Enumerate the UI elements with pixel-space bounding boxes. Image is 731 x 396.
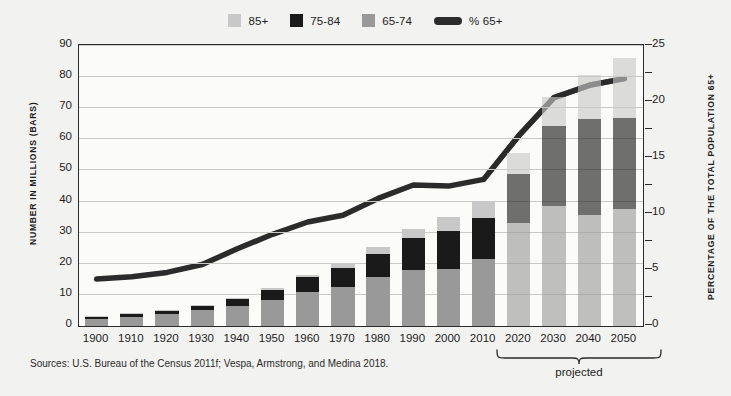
y-axis-left-tick-label: 0	[38, 318, 72, 330]
bar-group	[578, 75, 601, 326]
legend-label: 75-84	[310, 15, 340, 27]
y-axis-right-tick-mark	[645, 128, 652, 129]
bar-group	[191, 305, 214, 326]
bar-segment-85plus	[507, 153, 530, 174]
legend-item-7584: 75-84	[290, 14, 340, 27]
bar-segment-75-84	[507, 174, 530, 223]
bar-group	[472, 201, 495, 326]
y-axis-left-tick-label: 50	[38, 162, 72, 174]
gridline	[79, 45, 643, 46]
bar-group	[402, 229, 425, 326]
y-axis-left-tick-label: 40	[38, 194, 72, 206]
bar-segment-75-84	[120, 314, 143, 317]
bar-segment-75-84	[226, 299, 249, 306]
bar-group	[85, 316, 108, 326]
bar-group	[331, 264, 354, 326]
bar-segment-85plus	[437, 217, 460, 230]
bar-segment-65-74	[331, 287, 354, 326]
bar-segment-85plus	[542, 97, 565, 125]
legend-swatch-icon	[290, 14, 303, 27]
y-axis-right-tick-label: 25	[652, 38, 686, 50]
legend-line-icon	[434, 17, 462, 25]
legend-label: 65-74	[382, 15, 412, 27]
gridline	[79, 76, 643, 77]
bar-segment-85plus	[613, 58, 636, 117]
bar-group	[437, 217, 460, 326]
y-axis-right-tick-label: 5	[652, 262, 686, 274]
y-axis-right-tick-label: 10	[652, 206, 686, 218]
bar-segment-75-84	[261, 290, 284, 300]
bar-segment-85plus	[366, 247, 389, 254]
bar-segment-85plus	[578, 75, 601, 119]
y-axis-left-tick-label: 20	[38, 256, 72, 268]
bar-segment-75-84	[191, 305, 214, 310]
bar-segment-85plus	[155, 310, 178, 311]
bar-segment-85plus	[261, 288, 284, 290]
bar-segment-65-74	[191, 310, 214, 326]
y-axis-right-tick-mark	[645, 212, 652, 213]
bar-segment-65-74	[296, 292, 319, 326]
y-axis-right-tick-label: 0	[652, 318, 686, 330]
legend-swatch-icon	[228, 14, 241, 27]
y-axis-left-tick-label: 60	[38, 131, 72, 143]
bar-segment-75-84	[542, 126, 565, 206]
y-axis-right-tick-mark	[645, 268, 652, 269]
y-axis-right-tick-label: 20	[652, 94, 686, 106]
bar-segment-65-74	[472, 259, 495, 327]
bar-group	[155, 310, 178, 326]
legend-swatch-icon	[362, 14, 375, 27]
bar-segment-65-74	[120, 317, 143, 326]
bar-segment-75-84	[472, 218, 495, 259]
legend-label: 85+	[248, 15, 268, 27]
y-axis-left-tick-label: 30	[38, 225, 72, 237]
legend-item-6574: 65-74	[362, 14, 412, 27]
bar-group	[261, 288, 284, 326]
y-axis-right-tick-mark	[645, 44, 652, 45]
projected-label: projected	[494, 366, 664, 378]
y-axis-left-title: NUMBER IN MILLIONS (BARS)	[28, 102, 38, 245]
bar-segment-75-84	[331, 268, 354, 287]
y-axis-right-tick-mark	[645, 156, 652, 157]
chart-figure: 85+75-8465-74% 65+ NUMBER IN MILLIONS (B…	[0, 0, 731, 396]
bar-segment-75-84	[437, 231, 460, 269]
x-axis-tick-label: 2050	[601, 333, 645, 345]
bar-segment-65-74	[437, 269, 460, 326]
projected-bracket-icon	[494, 349, 664, 365]
bar-group	[120, 313, 143, 326]
legend-label: % 65+	[469, 15, 502, 27]
bar-segment-75-84	[613, 118, 636, 210]
sources-note: Sources: U.S. Bureau of the Census 2011f…	[30, 358, 388, 369]
bar-segment-65-74	[613, 209, 636, 326]
bar-segment-65-74	[226, 306, 249, 326]
bar-segment-75-84	[85, 317, 108, 319]
bar-segment-85plus	[331, 264, 354, 268]
y-axis-left-tick-label: 80	[38, 69, 72, 81]
bar-group	[542, 97, 565, 326]
bar-segment-65-74	[542, 206, 565, 326]
bar-segment-75-84	[296, 277, 319, 291]
bar-group	[226, 298, 249, 326]
legend-item-65+: % 65+	[434, 15, 502, 27]
bar-segment-65-74	[578, 215, 601, 326]
y-axis-right-tick-mark	[645, 100, 652, 101]
bar-group	[613, 58, 636, 326]
bar-group	[507, 153, 530, 326]
bar-segment-85plus	[402, 229, 425, 239]
legend-item-85+: 85+	[228, 14, 268, 27]
bar-segment-85plus	[191, 305, 214, 306]
y-axis-right-tick-label: 15	[652, 150, 686, 162]
bar-segment-85plus	[472, 201, 495, 218]
bar-segment-65-74	[155, 314, 178, 326]
bar-segment-85plus	[120, 313, 143, 314]
bar-segment-65-74	[261, 300, 284, 326]
bar-segment-65-74	[366, 277, 389, 326]
chart-legend: 85+75-8465-74% 65+	[0, 14, 731, 27]
bar-segment-75-84	[155, 310, 178, 314]
bar-segment-85plus	[226, 298, 249, 299]
bar-segment-75-84	[578, 119, 601, 215]
bar-segment-65-74	[85, 319, 108, 326]
bar-segment-65-74	[507, 223, 530, 326]
bar-segment-75-84	[402, 238, 425, 269]
bar-segment-75-84	[366, 254, 389, 278]
y-axis-right-tick-mark	[645, 184, 652, 185]
